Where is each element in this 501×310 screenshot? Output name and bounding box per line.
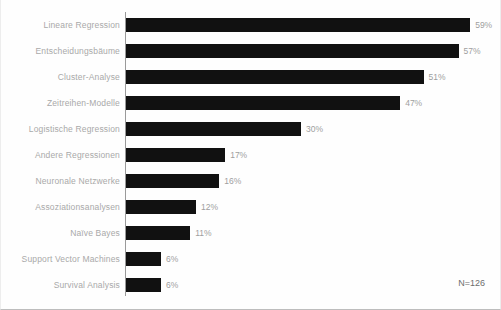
bar-value-label: 6%	[166, 252, 178, 266]
bar	[126, 174, 219, 188]
bar-row: Cluster-Analyse51%	[1, 64, 501, 90]
bar	[126, 252, 161, 266]
bar	[126, 18, 470, 32]
bar-container: 30%	[126, 122, 323, 136]
bar-category-label: Lineare Regression	[44, 12, 120, 38]
bar-value-label: 6%	[166, 278, 178, 292]
bar-row: Lineare Regression59%	[1, 12, 501, 38]
bar-container: 12%	[126, 200, 218, 214]
bar-category-label: Entscheidungsbäume	[36, 38, 120, 64]
bar-row: Entscheidungsbäume57%	[1, 38, 501, 64]
bar-value-label: 57%	[464, 44, 481, 58]
bar-value-label: 16%	[224, 174, 241, 188]
bar-category-label: Zeitreihen-Modelle	[47, 90, 120, 116]
bar	[126, 44, 459, 58]
bar-value-label: 11%	[195, 226, 211, 240]
sample-size-annotation: N=126	[458, 278, 485, 288]
bar-rows: Lineare Regression59%Entscheidungsbäume5…	[1, 12, 501, 298]
bar-category-label: Assoziationsanalysen	[35, 194, 120, 220]
bar-row: Survival Analysis6%	[1, 272, 501, 298]
bar-value-label: 17%	[230, 148, 247, 162]
bar-row: Andere Regressionen17%	[1, 142, 501, 168]
bar-value-label: 59%	[475, 18, 492, 32]
bar-container: 11%	[126, 226, 212, 240]
bar-container: 47%	[126, 96, 422, 110]
bar-row: Assoziationsanalysen12%	[1, 194, 501, 220]
bar-category-label: Survival Analysis	[54, 272, 120, 298]
bar	[126, 200, 196, 214]
plot-area: Lineare Regression59%Entscheidungsbäume5…	[1, 0, 501, 310]
bar-value-label: 47%	[405, 96, 422, 110]
bar-value-label: 30%	[306, 122, 323, 136]
bar-row: Logistische Regression30%	[1, 116, 501, 142]
bar-container: 6%	[126, 252, 178, 266]
bar-row: Naïve Bayes11%	[1, 220, 501, 246]
bar-container: 16%	[126, 174, 241, 188]
bar-category-label: Cluster-Analyse	[58, 64, 120, 90]
bar-container: 57%	[126, 44, 481, 58]
bar-container: 51%	[126, 70, 446, 84]
bar-container: 6%	[126, 278, 178, 292]
bar-row: Zeitreihen-Modelle47%	[1, 90, 501, 116]
bar-category-label: Logistische Regression	[29, 116, 120, 142]
bar-row: Neuronale Netzwerke16%	[1, 168, 501, 194]
bar	[126, 278, 161, 292]
bar	[126, 122, 301, 136]
bar-value-label: 51%	[429, 70, 446, 84]
bar-value-label: 12%	[201, 200, 218, 214]
bar-category-label: Support Vector Machines	[22, 246, 120, 272]
bar	[126, 70, 424, 84]
bar-category-label: Neuronale Netzwerke	[35, 168, 120, 194]
bar-container: 59%	[126, 18, 492, 32]
bar	[126, 96, 400, 110]
bar	[126, 148, 225, 162]
bar-chart: Lineare Regression59%Entscheidungsbäume5…	[0, 0, 501, 310]
bar-container: 17%	[126, 148, 247, 162]
bar	[126, 226, 190, 240]
bar-category-label: Andere Regressionen	[35, 142, 120, 168]
bar-row: Support Vector Machines6%	[1, 246, 501, 272]
bar-category-label: Naïve Bayes	[70, 220, 120, 246]
